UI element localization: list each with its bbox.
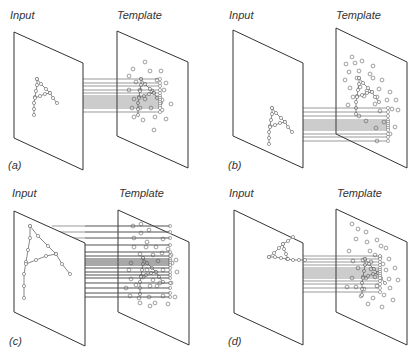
panel-d-caption: (d) xyxy=(228,336,241,347)
template-plane xyxy=(118,210,189,345)
template-plane xyxy=(117,31,188,168)
panel-d xyxy=(234,209,407,345)
panel-a xyxy=(14,31,188,170)
panel-c-input-label: Input xyxy=(12,188,36,199)
template-plane xyxy=(336,209,407,345)
panel-c-template-label: Template xyxy=(119,188,164,199)
panel-a-input-label: Input xyxy=(10,10,34,21)
figure: Input Template (a) Input Template (b) In… xyxy=(0,0,419,358)
diagram-canvas xyxy=(0,0,419,358)
panel-a-template-label: Template xyxy=(117,10,162,21)
input-plane xyxy=(234,210,303,345)
panel-c-caption: (c) xyxy=(9,336,22,347)
input-plane xyxy=(14,211,85,346)
panel-b-input-label: Input xyxy=(229,10,253,21)
panel-b-template-label: Template xyxy=(336,10,381,21)
panel-d-template-label: Template xyxy=(337,188,382,199)
panel-b xyxy=(233,28,407,168)
panel-a-caption: (a) xyxy=(8,160,21,171)
input-plane xyxy=(14,32,83,170)
panel-c xyxy=(14,210,189,346)
panel-d-input-label: Input xyxy=(229,188,253,199)
panel-b-caption: (b) xyxy=(228,160,241,171)
input-plane xyxy=(233,30,303,168)
